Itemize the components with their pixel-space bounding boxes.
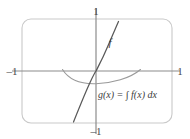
curve-g-equation-label: g(x) = ∫ f(x) dx	[98, 89, 157, 101]
tick-label-left: –1	[6, 65, 18, 77]
curve-g	[63, 70, 141, 84]
tick-label-bottom: –1	[90, 125, 102, 137]
tick-label-right: 1	[177, 65, 183, 77]
curve-f-label: f	[108, 36, 113, 48]
tick-label-top: 1	[93, 5, 99, 17]
figure-container: 1 –1 1 –1 f g(x) = ∫ f(x) dx	[0, 0, 190, 139]
graph-canvas: 1 –1 1 –1 f g(x) = ∫ f(x) dx	[0, 0, 190, 139]
